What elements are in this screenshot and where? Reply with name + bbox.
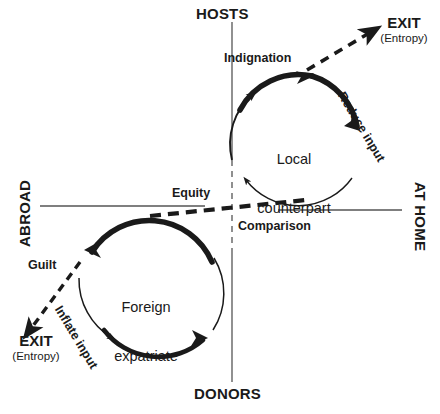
diagram-canvas: HOSTS DONORS ABROAD AT HOME Equity Compa…: [0, 0, 440, 414]
node-label-line-2: expatriate: [96, 348, 196, 364]
label-guilt: Guilt: [28, 258, 56, 272]
axis-label-hosts: HOSTS: [196, 6, 249, 23]
label-equity: Equity: [172, 186, 210, 200]
axis-horizontal: [40, 206, 402, 210]
label-indignation: Indignation: [224, 51, 291, 65]
axis-label-donors: DONORS: [194, 386, 261, 403]
exit-label-upper: EXIT: [372, 15, 436, 32]
axis-label-abroad: ABROAD: [17, 176, 34, 250]
exit-sublabel-lower: (Entropy): [0, 350, 72, 363]
node-label-foreign-expatriate: Foreign expatriate: [96, 267, 196, 397]
exit-label-lower: EXIT: [4, 333, 68, 350]
exit-sublabel-upper: (Entropy): [368, 32, 440, 45]
axis-label-at-home: AT HOME: [412, 179, 429, 253]
arrowhead-guilt-loop: [84, 241, 101, 258]
arc-thin-right-lower: [213, 258, 224, 330]
node-label-local-counterpart: Local counterpart: [244, 119, 344, 249]
exit-arrow-upper: [307, 32, 371, 70]
node-label-line-2: counterpart: [244, 200, 344, 216]
arc-thick-top-left: [92, 220, 212, 262]
node-label-line-1: Foreign: [96, 299, 196, 315]
node-label-line-1: Local: [244, 151, 344, 167]
